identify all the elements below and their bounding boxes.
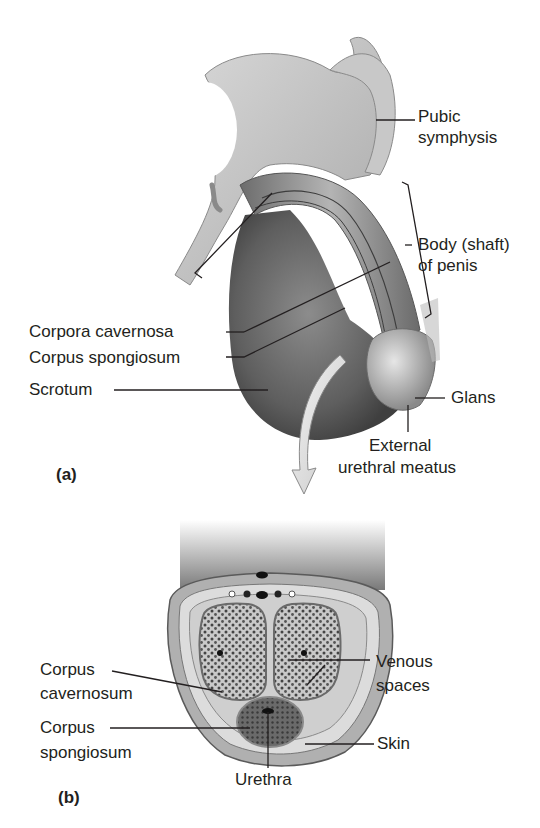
label-venous-spaces-line2: spaces	[376, 676, 430, 696]
label-urethra: Urethra	[235, 770, 292, 790]
label-corpus-spongiosum-b-line1: Corpus	[40, 718, 95, 738]
label-corpora-cavernosa: Corpora cavernosa	[29, 322, 174, 342]
label-corpus-cavernosum-line2: cavernosum	[40, 684, 133, 704]
label-scrotum: Scrotum	[29, 380, 92, 400]
label-pubic-symphysis-line2: symphysis	[418, 128, 497, 148]
label-skin: Skin	[377, 734, 410, 754]
panel-a-tag: (a)	[56, 465, 77, 485]
label-external-urethral-meatus-line2: urethral meatus	[338, 458, 456, 478]
label-body-shaft-line2: of penis	[418, 256, 478, 276]
label-venous-spaces-line1: Venous	[376, 652, 433, 672]
label-glans: Glans	[451, 388, 495, 408]
label-external-urethral-meatus-line1: External	[369, 436, 431, 456]
panel-b-tag: (b)	[58, 788, 80, 808]
label-corpus-cavernosum-line1: Corpus	[40, 660, 95, 680]
label-corpus-spongiosum-b-line2: spongiosum	[40, 743, 132, 763]
label-corpus-spongiosum-a: Corpus spongiosum	[29, 348, 180, 368]
label-pubic-symphysis-line1: Pubic	[418, 107, 461, 127]
label-body-shaft-line1: Body (shaft)	[418, 235, 510, 255]
cross-section	[168, 520, 393, 766]
